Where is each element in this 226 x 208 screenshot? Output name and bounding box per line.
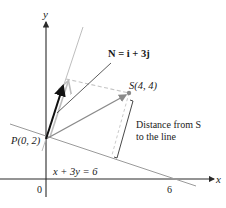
n-label-leader bbox=[57, 63, 111, 113]
point-s-label-text: S(4, 4) bbox=[129, 80, 157, 92]
normal-vector-label-rest: = i + 3j bbox=[116, 48, 150, 59]
point-p-label-text: P(0, 2) bbox=[10, 135, 41, 147]
diagram-canvas: y x 0 6 P(0, 2) S(4, 4) N = i + 3j x + 3… bbox=[0, 0, 226, 208]
point-p-label: P(0, 2) bbox=[10, 135, 41, 147]
y-axis-label: y bbox=[42, 8, 48, 20]
distance-annotation-line1: Distance from S bbox=[136, 119, 201, 130]
distance-annotation-line2: to the line bbox=[136, 131, 177, 142]
line-equation-label: x + 3y = 6 bbox=[52, 166, 98, 177]
x-axis-label: x bbox=[215, 173, 221, 185]
origin-label: 0 bbox=[37, 184, 42, 195]
distance-bracket bbox=[114, 100, 133, 158]
point-s bbox=[127, 91, 131, 95]
normal-vector-label: N = i + 3j bbox=[108, 48, 150, 59]
x-tick-6-label: 6 bbox=[167, 184, 172, 195]
point-s-label: S(4, 4) bbox=[129, 80, 157, 92]
